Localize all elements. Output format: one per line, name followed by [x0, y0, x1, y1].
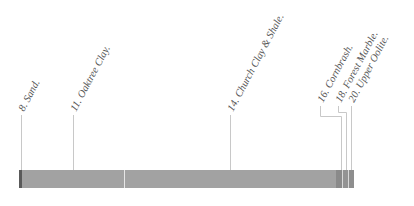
strata-segment [343, 170, 348, 188]
stratum-label: 8. Sand. [16, 78, 42, 113]
strata-segment [124, 170, 125, 188]
stratum-label: 14. Church Clay & Shale. [225, 12, 286, 113]
leader-line [321, 106, 342, 170]
leader-lines [22, 106, 352, 170]
strata-segment [349, 170, 354, 188]
strata-segment [342, 170, 343, 188]
strata-segment [336, 170, 342, 188]
strata-labels: 8. Sand.11. Oaktree Clay.14. Church Clay… [16, 12, 390, 113]
strata-segment [19, 170, 22, 188]
strata-segment [348, 170, 349, 188]
strata-segment [125, 170, 336, 188]
strata-bar [19, 170, 354, 188]
stratum-label: 11. Oaktree Clay. [68, 43, 112, 113]
leader-line [339, 106, 347, 170]
strata-diagram: 8. Sand.11. Oaktree Clay.14. Church Clay… [0, 0, 414, 206]
strata-segment [22, 170, 124, 188]
